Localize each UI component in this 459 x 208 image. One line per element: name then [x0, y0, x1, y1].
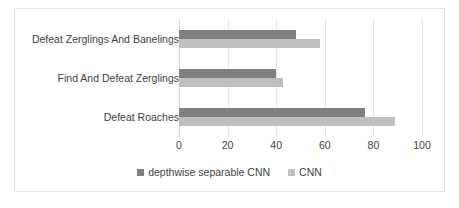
x-axis-tick-label: 40 — [270, 139, 282, 151]
bar — [179, 39, 320, 48]
x-axis-tick-label: 80 — [368, 139, 380, 151]
bar — [179, 69, 276, 78]
category-axis-labels: Defeat Zerglings And BanelingsFind And D… — [15, 19, 179, 137]
x-axis-tick-label: 0 — [176, 139, 182, 151]
category-label: Find And Defeat Zerglings — [15, 72, 179, 84]
bar-group — [179, 108, 422, 128]
bar — [179, 78, 283, 87]
legend-swatch-icon — [137, 169, 144, 176]
gridline — [422, 19, 423, 137]
x-axis-tick-label: 20 — [222, 139, 234, 151]
bar-group — [179, 69, 422, 89]
value-axis-ticks: 020406080100 — [179, 139, 422, 155]
bar — [179, 117, 395, 126]
plot-area — [179, 19, 422, 137]
category-label: Defeat Zerglings And Banelings — [15, 33, 179, 45]
legend-label: CNN — [299, 166, 322, 178]
bar — [179, 108, 365, 117]
plot-wrapper: Defeat Zerglings And BanelingsFind And D… — [15, 19, 444, 145]
category-label: Defeat Roaches — [15, 111, 179, 123]
legend-entry[interactable]: CNN — [288, 166, 322, 178]
x-axis-tick-label: 100 — [413, 139, 431, 151]
legend-entry[interactable]: depthwise separable CNN — [137, 166, 270, 178]
legend-label: depthwise separable CNN — [148, 166, 270, 178]
chart-legend: depthwise separable CNNCNN — [15, 166, 444, 178]
bar — [179, 30, 296, 39]
bar-group — [179, 30, 422, 50]
x-axis-tick-label: 60 — [319, 139, 331, 151]
chart-container: Defeat Zerglings And BanelingsFind And D… — [14, 8, 445, 192]
legend-swatch-icon — [288, 169, 295, 176]
